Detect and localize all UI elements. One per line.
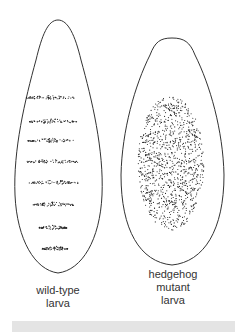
denticle-stripe bbox=[27, 138, 73, 143]
denticle bbox=[151, 110, 152, 111]
denticle bbox=[139, 171, 140, 172]
denticle bbox=[177, 174, 178, 175]
denticle bbox=[165, 148, 166, 149]
denticle bbox=[171, 195, 172, 196]
denticle bbox=[163, 201, 164, 202]
denticle bbox=[162, 144, 163, 145]
denticle bbox=[192, 135, 193, 136]
denticle bbox=[192, 140, 193, 141]
denticle bbox=[193, 198, 194, 199]
denticle bbox=[181, 196, 182, 197]
denticle bbox=[191, 124, 192, 125]
denticle bbox=[177, 169, 178, 170]
denticle bbox=[155, 180, 156, 181]
denticle bbox=[171, 198, 172, 199]
denticle bbox=[196, 194, 197, 195]
denticle bbox=[142, 196, 143, 197]
denticle bbox=[178, 216, 179, 217]
denticle bbox=[172, 204, 173, 205]
denticle bbox=[170, 214, 171, 215]
denticle bbox=[159, 169, 160, 170]
denticle bbox=[172, 163, 173, 164]
denticle bbox=[182, 183, 183, 184]
denticle bbox=[164, 216, 165, 217]
denticle bbox=[161, 215, 162, 216]
denticle bbox=[164, 106, 165, 107]
denticle bbox=[197, 190, 198, 191]
denticle bbox=[183, 201, 184, 202]
denticle bbox=[149, 140, 150, 141]
denticle bbox=[172, 97, 173, 98]
denticle bbox=[151, 154, 152, 155]
denticle bbox=[164, 223, 165, 224]
denticle bbox=[182, 208, 183, 209]
denticle bbox=[148, 122, 149, 123]
denticle bbox=[171, 211, 172, 212]
denticle bbox=[179, 195, 180, 196]
denticle bbox=[189, 136, 190, 137]
denticle bbox=[185, 203, 186, 204]
denticle bbox=[142, 138, 143, 139]
denticle bbox=[143, 151, 144, 152]
denticle bbox=[183, 220, 184, 221]
denticle bbox=[160, 136, 161, 137]
denticle bbox=[166, 167, 167, 168]
denticle bbox=[186, 123, 187, 124]
denticle bbox=[153, 183, 154, 184]
denticle bbox=[183, 169, 184, 170]
denticle bbox=[138, 163, 139, 164]
denticle bbox=[170, 167, 171, 168]
denticle bbox=[173, 141, 174, 142]
denticle bbox=[178, 108, 179, 109]
denticle bbox=[138, 156, 139, 157]
denticle bbox=[141, 192, 142, 193]
denticle bbox=[172, 171, 173, 172]
denticle bbox=[150, 146, 151, 147]
denticle bbox=[153, 144, 154, 145]
denticle bbox=[182, 106, 183, 107]
denticle bbox=[185, 185, 186, 186]
denticle bbox=[170, 180, 171, 181]
denticle bbox=[200, 174, 201, 175]
denticle bbox=[161, 222, 162, 223]
denticle bbox=[198, 165, 199, 166]
denticle bbox=[177, 148, 178, 149]
denticle bbox=[187, 116, 188, 117]
denticle bbox=[158, 131, 159, 132]
denticle bbox=[177, 182, 178, 183]
denticle bbox=[165, 221, 166, 222]
denticle bbox=[189, 121, 190, 122]
denticle bbox=[192, 118, 193, 119]
denticle bbox=[163, 105, 164, 106]
denticle bbox=[156, 148, 157, 149]
denticle bbox=[186, 169, 187, 170]
denticle bbox=[155, 119, 156, 120]
denticle bbox=[143, 191, 144, 192]
denticle bbox=[200, 133, 201, 134]
denticle bbox=[194, 165, 195, 166]
denticle bbox=[147, 160, 148, 161]
denticle bbox=[154, 185, 155, 186]
denticle bbox=[177, 149, 178, 150]
denticle bbox=[186, 163, 187, 164]
denticle bbox=[167, 142, 168, 143]
denticle bbox=[167, 185, 168, 186]
denticle bbox=[157, 210, 158, 211]
denticle bbox=[153, 156, 154, 157]
denticle bbox=[186, 183, 187, 184]
denticle bbox=[146, 175, 147, 176]
denticle bbox=[166, 105, 167, 106]
denticle bbox=[185, 198, 186, 199]
denticle bbox=[171, 135, 172, 136]
denticle bbox=[188, 160, 189, 161]
denticle bbox=[194, 178, 195, 179]
denticle bbox=[140, 187, 141, 188]
denticle bbox=[148, 165, 149, 166]
denticle bbox=[145, 205, 146, 206]
denticle bbox=[181, 202, 182, 203]
denticle bbox=[173, 204, 174, 205]
denticle bbox=[154, 165, 155, 166]
denticle bbox=[172, 105, 173, 106]
denticle bbox=[176, 113, 177, 114]
denticle bbox=[178, 165, 179, 166]
